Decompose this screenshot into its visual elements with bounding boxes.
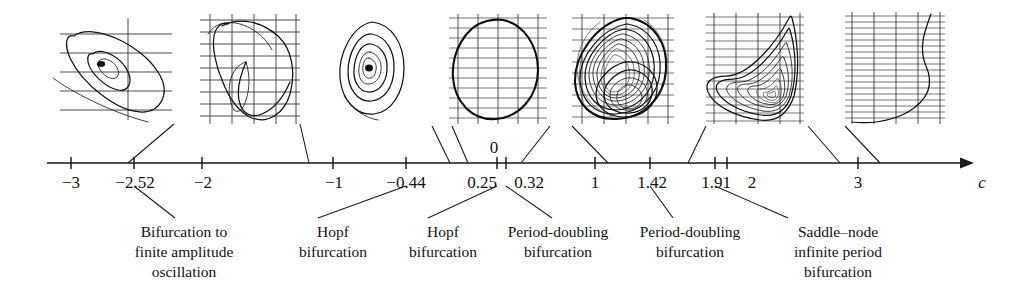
panel-3-phase-portrait	[330, 10, 430, 126]
tick-label--1: −1	[325, 174, 343, 191]
panel-6-phase-portrait	[704, 10, 808, 126]
axis-annotation-zero: 0	[490, 139, 499, 156]
tick-label-1: 1	[591, 174, 600, 191]
caption-saddle-node-infinite-period-bifurcation: Saddle–node infinite period bifurcation	[758, 222, 918, 281]
tick-label-0.25: 0.25	[467, 174, 497, 191]
tick-label-1.42: 1.42	[637, 174, 667, 191]
tick-label--0.44: −0.44	[386, 174, 425, 191]
panel-leader-lines	[128, 124, 880, 163]
tick-label--3: −3	[62, 174, 80, 191]
bifurcation-diagram: −3 −2.52 −2 −1 −0.44 0.25 0.32 1 1.42 1.…	[0, 0, 1010, 295]
tick-label--2.52: −2.52	[115, 174, 154, 191]
caption-period-doubling-bifurcation-2: Period-doubling bifurcation	[605, 222, 775, 262]
tick-label-0.32: 0.32	[514, 174, 544, 191]
panel-4-phase-portrait	[447, 10, 551, 126]
panel-2-phase-portrait	[198, 10, 302, 126]
panel-7-phase-portrait	[843, 10, 949, 126]
panel-1-phase-portrait	[53, 12, 176, 122]
number-line-axis	[47, 157, 974, 169]
tick-label-1.91: 1.91	[701, 174, 731, 191]
caption-leader-lines	[134, 186, 788, 218]
axis-variable-label: c	[978, 174, 986, 191]
caption-bifurcation-to-finite-amplitude-oscillation: Bifurcation to finite amplitude oscillat…	[84, 222, 284, 281]
panel-5-phase-portrait	[570, 10, 678, 126]
tick-label-2: 2	[748, 174, 757, 191]
tick-label-3: 3	[854, 174, 863, 191]
tick-label--2: −2	[194, 174, 212, 191]
